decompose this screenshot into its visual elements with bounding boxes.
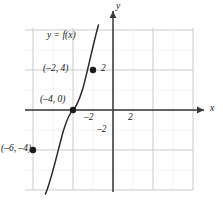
point-upper-marker bbox=[90, 67, 96, 73]
ytick-label-neg2: –2 bbox=[97, 125, 107, 135]
graph-figure: y = f(x) (–2, 4) (–4, 0) (–6, –4) –2 2 2… bbox=[0, 0, 223, 201]
point-root-label: (–4, 0) bbox=[40, 95, 65, 105]
x-axis-label: x bbox=[210, 104, 214, 114]
coordinate-plane bbox=[0, 0, 223, 201]
x-axis bbox=[25, 107, 204, 114]
ytick-label-2: 2 bbox=[101, 64, 106, 74]
grid-minor bbox=[25, 28, 193, 190]
xtick-label-neg2: –2 bbox=[84, 113, 94, 123]
point-root-marker bbox=[70, 107, 76, 113]
point-lower-label: (–6, –4) bbox=[1, 144, 31, 154]
grid-major bbox=[25, 28, 193, 190]
y-axis bbox=[110, 11, 117, 192]
xtick-label-2: 2 bbox=[128, 113, 133, 123]
point-upper-label: (–2, 4) bbox=[43, 64, 68, 74]
curve-label: y = f(x) bbox=[47, 31, 76, 41]
y-axis-label: y bbox=[116, 2, 120, 12]
